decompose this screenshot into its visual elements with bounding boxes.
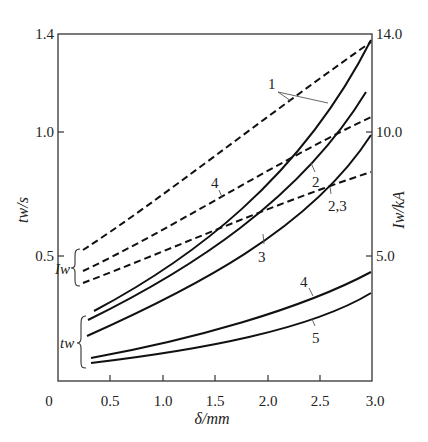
iw-curves [83,42,371,283]
x-tick-1-0: 1.0 [154,393,173,409]
x-axis-title: δ/mm [195,410,230,427]
tw-group-brace [77,316,86,368]
y-left-tick-labels: 0.5 1.0 1.4 [35,26,54,264]
y-axis-left-ticks [58,132,64,256]
chart: 0 0.5 1.0 1.5 2.0 2.5 3.0 0.5 1.0 1.4 5.… [0,0,428,442]
x-tick-2-5: 2.5 [311,393,330,409]
curve-2-tw [88,92,366,320]
x-tick-labels: 0 0.5 1.0 1.5 2.0 2.5 3.0 [45,393,384,409]
label-curve-2: 2 [312,174,320,190]
iw-group-label: Iw [54,261,70,277]
curve-1-tw [94,40,371,311]
label-curve-4: 4 [300,274,308,290]
x-tick-0: 0 [45,393,53,409]
x-axis-ticks [110,375,320,381]
y-left-tick-0-5: 0.5 [35,248,54,264]
y-axis-left-title: tw/s [14,197,31,223]
curve-5-tw [91,293,371,363]
label-curve-4-dashed: 4 [211,175,219,191]
leader-lines [219,92,331,326]
iw-group-brace [71,249,80,286]
y-left-tick-1-0: 1.0 [35,124,54,140]
x-tick-0-5: 0.5 [101,393,120,409]
y-right-tick-14-0: 14.0 [376,26,402,42]
y-right-tick-5-0: 5.0 [376,248,395,264]
label-curve-2-3: 2,3 [328,198,347,214]
x-tick-2-0: 2.0 [259,393,278,409]
y-axis-right-title: Iw/kA [390,191,407,230]
y-right-tick-10-0: 10.0 [376,124,402,140]
x-tick-1-5: 1.5 [206,393,225,409]
x-tick-3-0: 3.0 [366,393,385,409]
label-curve-1: 1 [268,76,276,92]
tw-group-label: tw [60,335,74,351]
curve-4-iw [83,117,371,271]
label-curve-3: 3 [258,249,266,265]
y-left-tick-1-4: 1.4 [35,26,54,42]
y-axis-right-ticks [366,132,372,256]
label-curve-5: 5 [312,330,320,346]
plot-frame [58,34,372,381]
